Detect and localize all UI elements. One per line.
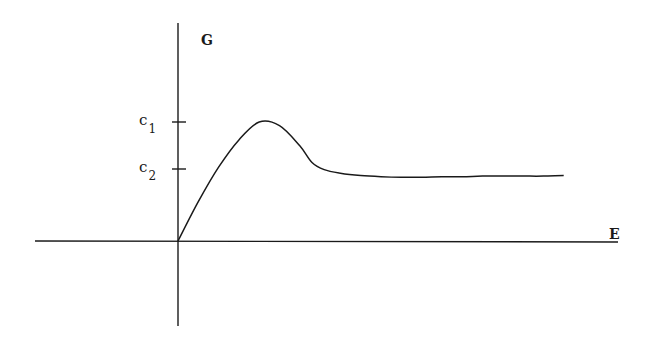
- y-tick-label-c2: c2: [139, 158, 156, 183]
- y-axis-label: G: [201, 32, 213, 48]
- x-axis-label: E: [609, 226, 620, 242]
- c1-base: c: [139, 111, 147, 129]
- c2-subscript: 2: [148, 169, 156, 183]
- c2-base: c: [139, 158, 147, 176]
- chart-canvas: G E c1 c2: [0, 0, 653, 337]
- c1-subscript: 1: [148, 122, 156, 136]
- y-tick-label-c1: c1: [139, 111, 156, 136]
- data-curve: [178, 121, 564, 241]
- x-axis-line: [35, 241, 618, 242]
